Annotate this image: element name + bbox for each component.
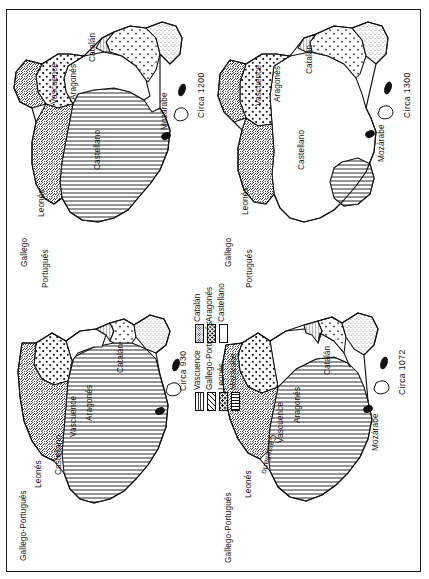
map-1072-label-mozarabe: Mozárabe (371, 413, 380, 451)
map-1300-label-castellano: Castellano (297, 130, 306, 170)
map-1300-label-portugues: Portugués (245, 249, 254, 288)
map-930-label-aragones: Aragonés (85, 385, 94, 421)
map-1072-label-gallego-portugues: Gallego-Portugués (224, 492, 233, 563)
legend-swatch-vascuence (195, 392, 204, 411)
map-1300-date: Circa 1300 (402, 72, 412, 118)
figure-frame: Vascuence Aragonés Catalán Leonés Castel… (6, 9, 421, 572)
island-mallorca (374, 381, 389, 394)
island-menorca (379, 356, 388, 369)
island-menorca (383, 81, 392, 94)
map-1072-label-vascuence: Vascuence (276, 402, 285, 443)
map-shape-circa-1200 (7, 10, 213, 293)
legend-label-leones: Leonés (217, 363, 226, 390)
legend-entry-castellano (219, 324, 228, 347)
island-mallorca (378, 106, 393, 119)
map-1072-label-leones: Leonés (244, 470, 253, 498)
map-1072-label-aragones: Aragonés (293, 387, 302, 423)
legend-label-castellano: Castellano (217, 283, 226, 322)
map-1300-label-leones: Leonés (241, 187, 250, 215)
legend-swatch-castellano (219, 324, 228, 343)
map-930-label-gallego-portugues-line1: Gallego-Portugués (19, 490, 28, 561)
island-menorca (177, 83, 186, 96)
legend-label-aragones: Aragonés (205, 287, 214, 322)
map-panel-circa-1200: Vascuence Aragonés Catalán Leonés Castel… (7, 10, 213, 293)
map-1200-label-castellano: Castellano (93, 130, 102, 170)
map-1200-label-leones: Leonés (37, 189, 46, 217)
map-1300-label-vascuence: Vascuence (254, 65, 263, 106)
legend-swatch-aragones (207, 324, 216, 343)
legend-label-vascuence: Vascuence (193, 350, 202, 390)
legend-label-mozarabe: Mozárabe (229, 354, 238, 390)
legend-swatch-catalan (195, 324, 204, 343)
map-1200-label-vascuence: Vascuence (50, 63, 59, 104)
map-1300-label-catalan: Catalán (305, 45, 314, 74)
map-1300-label-aragones: Aragonés (273, 66, 282, 102)
map-1072-date: Circa 1072 (397, 349, 407, 395)
map-930-label-vascuence: Vascuence (69, 396, 78, 437)
map-shape-circa-1300 (213, 10, 419, 293)
map-panel-circa-1300: Vascuence Aragonés Catalán Leonés Castel… (213, 10, 419, 293)
map-1300-label-gallego: Gallego (224, 238, 233, 267)
legend-entry-gallego-portugues (207, 392, 216, 415)
island-mallorca (174, 108, 188, 121)
map-930-label-castellano: Castellano (54, 435, 63, 475)
map-1200-label-aragones: Aragonés (69, 64, 78, 100)
legend-swatch-leones (219, 392, 228, 411)
map-1300-label-mozarabe: Mozárabe (377, 124, 386, 162)
map-legend: Vascuence Gallego-Portugués Leonés Mozár… (155, 310, 245, 490)
legend-label-catalan: Catalán (193, 294, 202, 322)
legend-swatch-gallego-portugues (207, 392, 216, 411)
map-1200-label-mozarabe: Mozárabe (160, 92, 169, 130)
legend-entry-mozarabe (231, 392, 240, 415)
map-1200-label-catalan: Catalán (88, 33, 97, 62)
legend-swatch-mozarabe (231, 392, 240, 411)
map-1200-label-gallego: Gallego (20, 238, 29, 267)
legend-entry-aragones (207, 324, 216, 347)
map-1200-label-portugues: Portugués (41, 249, 50, 288)
legend-entry-leones (219, 392, 228, 415)
legend-entry-vascuence (195, 392, 204, 415)
map-930-label-leones: Leonés (34, 460, 43, 488)
map-1072-label-catalan: Catalán (323, 346, 332, 375)
legend-entry-catalan (195, 324, 204, 347)
map-930-label-catalan: Catalán (116, 344, 125, 373)
map-1200-date: Circa 1200 (196, 72, 206, 118)
